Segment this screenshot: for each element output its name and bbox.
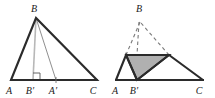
label-right-A: A <box>111 85 119 96</box>
triangle-outline-abc <box>11 18 97 80</box>
right-panel: B A B′ C <box>111 3 204 96</box>
label-left-C: C <box>90 85 97 96</box>
label-left-B: B <box>31 3 37 14</box>
dashed-line-b-to-left-fold <box>126 22 140 55</box>
label-right-B: B <box>136 3 142 14</box>
altitude-segment-b-bprime <box>33 18 36 80</box>
label-right-Bprime: B′ <box>130 85 139 96</box>
label-right-C: C <box>196 85 203 96</box>
label-left-A: A <box>5 85 13 96</box>
left-panel: B A B′ A′ C <box>5 3 98 96</box>
geometry-figure: B A B′ A′ C B A B′ C <box>0 0 215 98</box>
figure-canvas: B A B′ A′ C B A B′ C <box>0 0 215 98</box>
dashed-line-b-to-right-fold <box>141 23 169 55</box>
label-left-Aprime: A′ <box>48 85 58 96</box>
dashed-line-b-to-bprime <box>137 22 139 55</box>
label-left-Bprime: B′ <box>26 85 35 96</box>
